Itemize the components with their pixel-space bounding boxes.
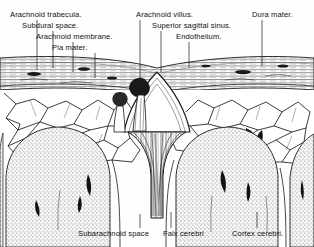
label-arachnoid-membrane: Arachnoid membrane. [36,32,113,41]
label-dura-mater: Dura mater. [252,10,293,19]
label-arachnoid-trabecula: Arachnoid trabecula. [10,10,82,19]
label-pia-mater: Pia mater. [52,43,87,52]
label-subdural-space: Subdural space. [22,21,78,30]
label-arachnoid-villus: Arachnoid villus. [136,10,193,19]
label-cortex-cerebri: Cortex cerebri. [232,229,283,238]
anatomical-figure: Arachnoid trabecula. Subdural space. Ara… [0,0,314,247]
label-endothelium: Endothelium. [176,32,222,41]
label-subarachnoid-space: Subarachnoid space [78,229,149,238]
label-falx-cerebri: Falx cerebri [163,229,204,238]
label-superior-sagittal-sinus: Superior sagittal sinus. [152,21,231,30]
